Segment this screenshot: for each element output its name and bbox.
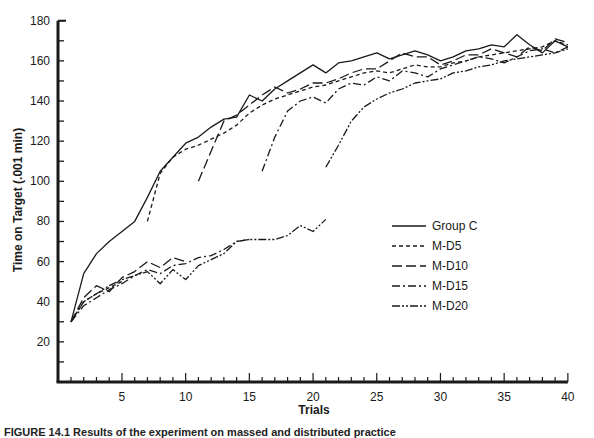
x-tick-label: 30 [434, 390, 448, 404]
y-tick-label: 180 [30, 14, 50, 28]
series-m-d15 [71, 47, 568, 322]
legend-label: M-D20 [432, 299, 468, 313]
y-tick-label: 140 [30, 94, 50, 108]
series-lines [71, 35, 568, 322]
x-tick-label: 20 [306, 390, 320, 404]
y-tick-label: 80 [37, 214, 51, 228]
series-m-d10 [71, 39, 568, 322]
legend-item: M-D5 [392, 239, 462, 253]
y-tick-label: 40 [37, 295, 51, 309]
legend-item: M-D15 [392, 279, 468, 293]
x-tick-label: 10 [179, 390, 193, 404]
y-tick-label: 100 [30, 174, 50, 188]
series-m-d20 [71, 49, 568, 322]
legend-label: Group C [432, 219, 478, 233]
x-tick-label: 40 [561, 390, 575, 404]
x-tick-label: 35 [497, 390, 511, 404]
legend-item: Group C [392, 219, 478, 233]
legend-label: M-D10 [432, 259, 468, 273]
x-tick-label: 25 [370, 390, 384, 404]
y-tick-label: 60 [37, 255, 51, 269]
legend-label: M-D15 [432, 279, 468, 293]
y-axis-title: Time on Target (.001 min) [11, 128, 25, 272]
legend-label: M-D5 [432, 239, 462, 253]
series-group-c [71, 35, 568, 322]
x-axis-title: Trials [298, 403, 330, 417]
legend-item: M-D10 [392, 259, 468, 273]
legend: Group CM-D5M-D10M-D15M-D20 [392, 219, 478, 313]
x-tick-label: 5 [119, 390, 126, 404]
y-tick-label: 160 [30, 54, 50, 68]
x-tick-label: 15 [243, 390, 257, 404]
y-tick-label: 120 [30, 134, 50, 148]
figure-caption: FIGURE 14.1 Results of the experiment on… [4, 426, 396, 438]
legend-item: M-D20 [392, 299, 468, 313]
y-tick-label: 20 [37, 335, 51, 349]
